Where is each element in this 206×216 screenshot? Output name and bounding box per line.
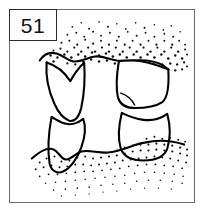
- figure-panel: 51: [0, 0, 206, 216]
- figure-number-text: 51: [21, 15, 45, 36]
- lower-right-tooth: [119, 113, 170, 161]
- upper-right-tooth: [117, 60, 169, 108]
- figure-number-badge: 51: [9, 9, 57, 41]
